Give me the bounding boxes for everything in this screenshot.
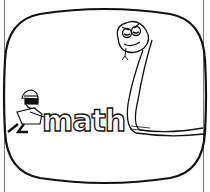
math-word: math: [42, 106, 125, 136]
cartoon-character: [8, 90, 44, 132]
illustration: [0, 0, 210, 192]
snake: [117, 22, 204, 136]
